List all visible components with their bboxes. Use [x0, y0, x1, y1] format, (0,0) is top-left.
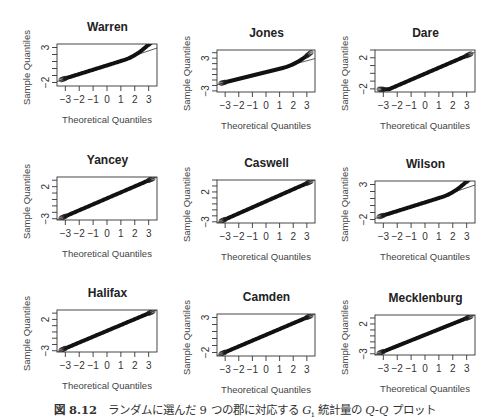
svg-text:−2: −2	[358, 83, 369, 95]
svg-text:1: 1	[277, 231, 283, 242]
y-axis-label: Sample Quantiles	[181, 300, 192, 375]
y-axis-label: Sample Quantiles	[21, 30, 32, 105]
svg-text:−2: −2	[74, 228, 86, 239]
svg-text:0: 0	[104, 228, 110, 239]
svg-text:2: 2	[290, 100, 296, 111]
svg-text:2: 2	[358, 321, 369, 327]
svg-text:3: 3	[464, 100, 470, 111]
svg-text:−1: −1	[405, 363, 417, 374]
svg-text:3: 3	[200, 55, 211, 61]
svg-text:3: 3	[40, 44, 51, 50]
svg-text:3: 3	[304, 100, 310, 111]
y-axis-label: Sample Quantiles	[339, 167, 350, 242]
svg-text:2: 2	[200, 189, 211, 195]
svg-text:2: 2	[132, 228, 138, 239]
figure-caption: 図 8.12 ランダムに選んだ 9 つの郡に対応する Gi 統計量の Q-Q プ…	[0, 401, 490, 419]
svg-text:1: 1	[436, 363, 442, 374]
x-axis-label: Theoretical Quantiles	[206, 120, 326, 131]
svg-text:−3: −3	[40, 213, 51, 225]
qq-panel-mecklenburg: Mecklenburg−3−2−10123−32Sample Quantiles…	[318, 278, 481, 411]
qq-label: Q-Q	[365, 403, 388, 417]
qq-panel-wilson: Wilson−3−2−10123−23Sample QuantilesTheor…	[318, 143, 481, 276]
caption-text-after: プロット	[388, 403, 436, 417]
svg-text:2: 2	[290, 364, 296, 375]
svg-text:−3: −3	[60, 94, 72, 105]
svg-text:3: 3	[146, 94, 152, 105]
caption-text-middle: 統計量の	[314, 403, 365, 417]
qq-panel-dare: Dare−3−2−10123−22Sample QuantilesTheoret…	[318, 14, 481, 147]
svg-text:−2: −2	[200, 346, 211, 358]
qq-panel-halifax: Halifax−3−2−10123−32Sample QuantilesTheo…	[0, 278, 163, 411]
svg-text:2: 2	[290, 231, 296, 242]
x-axis-label: Theoretical Quantiles	[47, 114, 167, 125]
svg-text:−3: −3	[219, 100, 231, 111]
svg-text:−2: −2	[233, 364, 245, 375]
svg-text:0: 0	[422, 363, 428, 374]
svg-text:3: 3	[200, 314, 211, 320]
y-axis-label: Sample Quantiles	[339, 300, 350, 375]
svg-text:−3: −3	[378, 363, 390, 374]
svg-text:3: 3	[464, 363, 470, 374]
svg-text:−2: −2	[74, 360, 86, 371]
svg-text:3: 3	[358, 181, 369, 187]
qq-panel-jones: Jones−3−2−10123−33Sample QuantilesTheore…	[160, 14, 323, 147]
svg-text:1: 1	[436, 100, 442, 111]
svg-text:−3: −3	[60, 360, 72, 371]
x-axis-label: Theoretical Quantiles	[206, 384, 326, 395]
svg-text:−1: −1	[247, 364, 259, 375]
qq-panel-yancey: Yancey−3−2−10123−32Sample QuantilesTheor…	[0, 143, 163, 276]
figure-label: 図 8.12	[54, 403, 97, 417]
svg-text:−2: −2	[392, 363, 404, 374]
svg-text:0: 0	[104, 360, 110, 371]
svg-text:2: 2	[132, 94, 138, 105]
svg-text:1: 1	[277, 100, 283, 111]
svg-text:0: 0	[263, 231, 269, 242]
svg-text:−3: −3	[378, 231, 390, 242]
svg-text:0: 0	[422, 231, 428, 242]
x-axis-label: Theoretical Quantiles	[47, 248, 167, 259]
svg-text:−1: −1	[247, 100, 259, 111]
svg-text:0: 0	[422, 100, 428, 111]
svg-text:1: 1	[118, 228, 124, 239]
svg-text:−3: −3	[60, 228, 72, 239]
svg-text:−3: −3	[40, 345, 51, 357]
svg-text:−2: −2	[392, 100, 404, 111]
svg-text:2: 2	[450, 231, 456, 242]
x-axis-label: Theoretical Quantiles	[206, 251, 326, 262]
svg-text:1: 1	[277, 364, 283, 375]
x-axis-label: Theoretical Quantiles	[365, 383, 485, 394]
svg-text:−1: −1	[405, 100, 417, 111]
svg-text:0: 0	[263, 364, 269, 375]
y-axis-label: Sample Quantiles	[21, 296, 32, 371]
caption-text-before: ランダムに選んだ 9 つの郡に対応する	[108, 403, 302, 417]
stat-symbol: G	[302, 403, 311, 417]
svg-text:−1: −1	[405, 231, 417, 242]
svg-text:2: 2	[450, 100, 456, 111]
svg-text:−3: −3	[200, 85, 211, 97]
svg-text:−2: −2	[40, 76, 51, 88]
qq-panel-warren: Warren−3−2−10123−23Sample QuantilesTheor…	[0, 14, 163, 147]
qq-panel-caswell: Caswell−3−2−10123−32Sample QuantilesTheo…	[160, 143, 323, 276]
svg-text:3: 3	[464, 231, 470, 242]
svg-text:0: 0	[104, 94, 110, 105]
svg-text:−2: −2	[233, 231, 245, 242]
svg-text:−3: −3	[219, 231, 231, 242]
svg-text:3: 3	[146, 228, 152, 239]
svg-text:−1: −1	[87, 228, 99, 239]
svg-text:−3: −3	[219, 364, 231, 375]
svg-text:1: 1	[118, 360, 124, 371]
svg-text:−1: −1	[247, 231, 259, 242]
svg-text:3: 3	[146, 360, 152, 371]
svg-text:−3: −3	[358, 348, 369, 360]
x-axis-label: Theoretical Quantiles	[47, 380, 167, 391]
svg-text:−2: −2	[233, 100, 245, 111]
svg-text:−3: −3	[378, 100, 390, 111]
svg-text:2: 2	[132, 360, 138, 371]
y-axis-label: Sample Quantiles	[181, 167, 192, 242]
svg-text:2: 2	[40, 183, 51, 189]
svg-text:3: 3	[304, 231, 310, 242]
y-axis-label: Sample Quantiles	[339, 36, 350, 111]
svg-text:2: 2	[40, 316, 51, 322]
x-axis-label: Theoretical Quantiles	[365, 251, 485, 262]
svg-text:−2: −2	[392, 231, 404, 242]
